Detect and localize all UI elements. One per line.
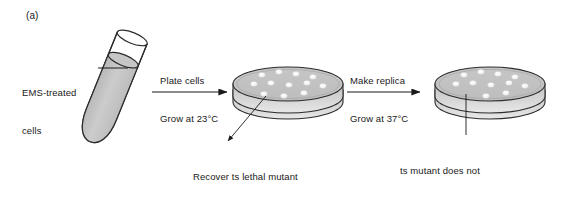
colony	[303, 80, 310, 85]
colony	[267, 80, 274, 85]
colony	[482, 93, 489, 98]
label-plate-line2: Grow at 23°C	[160, 113, 218, 126]
label-plate-cells: Plate cells Grow at 23°C	[160, 50, 218, 138]
colony	[477, 69, 484, 74]
master-plate	[233, 67, 343, 119]
colony	[319, 83, 326, 88]
label-ems-line2: cells	[22, 125, 76, 138]
colony-ts-mutant	[260, 91, 267, 96]
colony	[250, 81, 257, 86]
colony	[300, 90, 307, 95]
colony	[452, 81, 459, 86]
label-ems-line1: EMS-treated	[22, 87, 76, 100]
label-recover-mutant: Recover ts lethal mutant from master pla…	[193, 146, 298, 204]
colony	[309, 74, 316, 79]
colony	[469, 80, 476, 85]
colony	[511, 74, 518, 79]
label-ems-treated-cells: EMS-treated cells	[22, 62, 76, 150]
label-recover-line1: Recover ts lethal mutant	[193, 171, 298, 184]
colony	[521, 83, 528, 88]
label-replica-line2: Grow at 37°C	[350, 113, 408, 126]
colony	[275, 69, 282, 74]
colony	[487, 82, 494, 87]
colony	[285, 82, 292, 87]
colony	[505, 80, 512, 85]
colony	[494, 71, 501, 76]
label-make-replica: Make replica Grow at 37°C	[350, 50, 408, 138]
panel-letter: (a)	[26, 10, 39, 23]
replica-plate	[435, 67, 545, 119]
colony	[502, 90, 509, 95]
label-replica-line1: Make replica	[350, 75, 408, 88]
label-plate-line1: Plate cells	[160, 75, 218, 88]
test-tube	[75, 27, 149, 148]
colony	[292, 71, 299, 76]
label-nogrow-line1: ts mutant does not	[400, 165, 480, 178]
colony	[460, 72, 467, 77]
colony	[280, 93, 287, 98]
label-no-growth: ts mutant does not grow at 37°C	[400, 140, 480, 204]
label-nogrow-line2: grow at 37°C	[400, 203, 480, 205]
colony	[258, 72, 265, 77]
